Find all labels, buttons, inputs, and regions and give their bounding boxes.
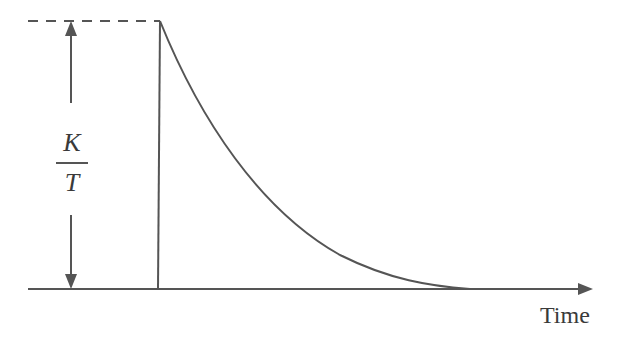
amplitude-denominator: T <box>52 168 92 198</box>
arrow-up-icon <box>65 21 77 36</box>
decay-curve <box>160 21 470 289</box>
time-axis-arrowhead-icon <box>578 283 593 295</box>
x-axis-label: Time <box>540 302 590 329</box>
arrow-down-icon <box>65 274 77 289</box>
diagram-canvas <box>0 0 620 344</box>
amplitude-label: K T <box>52 128 92 198</box>
amplitude-numerator: K <box>52 128 92 158</box>
fraction-bar <box>56 162 88 164</box>
step-edge <box>158 21 160 289</box>
